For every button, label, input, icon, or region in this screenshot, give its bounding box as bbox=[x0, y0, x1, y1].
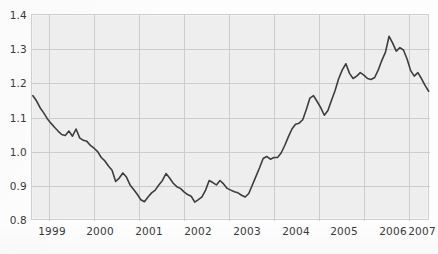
y-axis-tick-1.3: 1.3 bbox=[0, 44, 27, 55]
x-axis-tick-2000: 2000 bbox=[76, 226, 124, 237]
y-axis-tick-1.1: 1.1 bbox=[0, 113, 27, 124]
y-axis-tick-0.8: 0.8 bbox=[0, 215, 27, 226]
x-axis-tick-2002: 2002 bbox=[174, 226, 222, 237]
x-axis-tick-2001: 2001 bbox=[125, 226, 173, 237]
y-axis-tick-1.2: 1.2 bbox=[0, 78, 27, 89]
y-axis-tick-0.9: 0.9 bbox=[0, 181, 27, 192]
y-axis-tick-1.0: 1.0 bbox=[0, 147, 27, 158]
x-axis-tick-2005: 2005 bbox=[320, 226, 368, 237]
data-series-line bbox=[32, 15, 430, 221]
x-axis-tick-1999: 1999 bbox=[28, 226, 76, 237]
y-axis-tick-1.4: 1.4 bbox=[0, 10, 27, 21]
x-axis-tick-2003: 2003 bbox=[223, 226, 271, 237]
chart-container: 1.4 1.3 1.2 1.1 1.0 0.9 0.8 1999 2000 20… bbox=[0, 0, 438, 254]
plot-area bbox=[31, 14, 429, 220]
series-path-exchange-rate bbox=[33, 36, 429, 202]
x-axis-tick-2004: 2004 bbox=[272, 226, 320, 237]
x-axis-tick-2007: 2007 bbox=[398, 226, 438, 237]
